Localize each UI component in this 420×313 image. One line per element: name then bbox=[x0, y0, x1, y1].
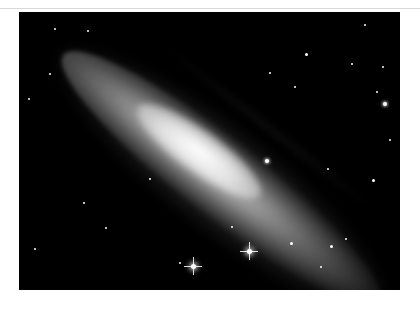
star bbox=[290, 242, 293, 245]
star bbox=[265, 159, 269, 163]
star bbox=[382, 66, 384, 68]
star bbox=[231, 226, 233, 228]
star bbox=[372, 179, 375, 182]
star bbox=[327, 168, 329, 170]
star bbox=[294, 86, 296, 88]
star bbox=[54, 28, 56, 30]
star bbox=[305, 53, 308, 56]
star bbox=[269, 72, 271, 74]
star bbox=[389, 139, 391, 141]
star bbox=[34, 248, 36, 250]
star bbox=[179, 262, 181, 264]
star bbox=[320, 266, 322, 268]
galaxy-photo bbox=[19, 12, 400, 290]
star bbox=[364, 24, 366, 26]
star bbox=[345, 238, 347, 240]
star bbox=[105, 227, 107, 229]
star bbox=[87, 30, 89, 32]
star bbox=[83, 202, 85, 204]
star bbox=[28, 98, 30, 100]
star bbox=[376, 91, 378, 93]
star bbox=[49, 73, 51, 75]
star bbox=[149, 178, 151, 180]
star bbox=[330, 245, 333, 248]
star bbox=[383, 102, 387, 106]
top-divider-line bbox=[0, 8, 420, 9]
star bbox=[351, 63, 353, 65]
